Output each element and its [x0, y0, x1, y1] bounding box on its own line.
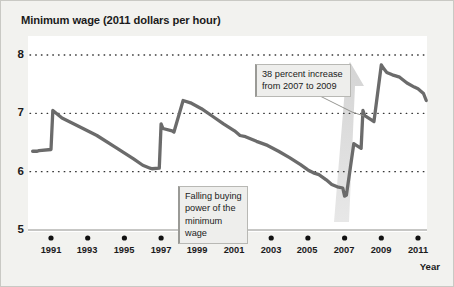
tick-dot-2003 [269, 235, 274, 240]
tick-dot-2011 [415, 235, 420, 240]
tick-dot-1993 [85, 235, 90, 240]
data-series-line [33, 65, 427, 196]
chart-page: Minimum wage (2011 dollars per hour) 8 7… [0, 0, 454, 287]
tick-dot-2009 [379, 235, 384, 240]
tick-dot-2007 [342, 235, 347, 240]
tick-dot-1991 [48, 235, 53, 240]
annotation-falling-buying-power: Falling buying power of the minimum wage [178, 186, 248, 244]
tick-dot-1995 [122, 235, 127, 240]
tick-dot-2005 [305, 235, 310, 240]
gridlines [30, 55, 426, 172]
tick-dot-1997 [159, 235, 164, 240]
callout-leader-line [318, 95, 364, 116]
annotation-increase: 38 percent increase from 2007 to 2009 [255, 64, 351, 97]
chart-svg [0, 0, 454, 287]
